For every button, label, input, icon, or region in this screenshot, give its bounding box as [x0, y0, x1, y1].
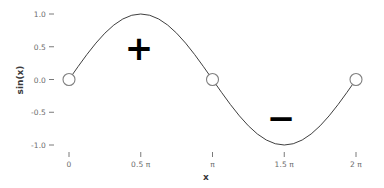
x-tick-label-3: 1.5 π — [275, 160, 294, 169]
x-tick-label-4: 2 π — [350, 160, 362, 169]
positive-half-sign: + — [125, 31, 154, 65]
negative-half-sign: − — [267, 101, 296, 135]
x-tick-label-1: 0.5 π — [131, 160, 150, 169]
x-tick-label-0: 0 — [67, 160, 72, 169]
sine-wave-chart: sin(x) x + − 1.00.50.0-0.5-1.0 00.5 ππ1.… — [0, 0, 384, 188]
y-axis-title: sin(x) — [15, 66, 25, 95]
data-marker-2 — [350, 74, 362, 86]
y-tick-label-1: 0.5 — [34, 42, 46, 51]
x-axis-title: x — [203, 172, 209, 182]
y-tick-label-2: 0.0 — [34, 75, 46, 84]
data-marker-0 — [63, 74, 75, 86]
data-marker-1 — [207, 74, 219, 86]
x-tick-label-2: π — [210, 160, 215, 169]
y-tick-label-3: -0.5 — [31, 108, 46, 117]
y-tick-label-4: -1.0 — [31, 141, 46, 150]
plot-area — [0, 0, 384, 188]
y-tick-label-0: 1.0 — [34, 10, 46, 19]
